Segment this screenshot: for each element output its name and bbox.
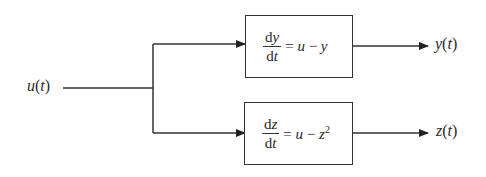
output-label-y: y(t) — [435, 35, 457, 53]
output-arg: t — [447, 35, 451, 52]
output-var: z — [436, 122, 442, 139]
output-label-z: z(t) — [436, 122, 457, 140]
input-var: u — [27, 77, 35, 94]
rhs-u: u — [297, 38, 305, 54]
minus: − — [303, 126, 319, 142]
rhs-z: = u − z2 — [283, 124, 330, 143]
derivative-fraction-z: dz dt — [262, 116, 279, 151]
num-d: d — [265, 29, 273, 45]
rhs-u: u — [296, 126, 304, 142]
connection-wires — [0, 0, 486, 177]
input-arg: t — [40, 77, 44, 94]
rhs-var: y — [321, 38, 328, 54]
derivative-fraction-y: dy dt — [263, 29, 281, 64]
den-var: t — [274, 48, 278, 64]
num-var: y — [273, 29, 280, 45]
output-var: y — [435, 35, 442, 52]
input-label: u(t) — [27, 77, 50, 95]
equals: = — [283, 126, 295, 142]
num-var: z — [272, 116, 278, 132]
equals: = — [285, 38, 297, 54]
equation-z: dz dt = u − z2 — [262, 112, 330, 154]
rhs-y: = u − y — [285, 38, 327, 55]
exponent: 2 — [325, 124, 330, 135]
den-var: t — [272, 135, 276, 151]
minus: − — [305, 38, 321, 54]
equation-y: dy dt = u − y — [263, 25, 328, 67]
den-d: d — [266, 48, 274, 64]
output-arg: t — [448, 122, 452, 139]
num-d: d — [264, 116, 272, 132]
